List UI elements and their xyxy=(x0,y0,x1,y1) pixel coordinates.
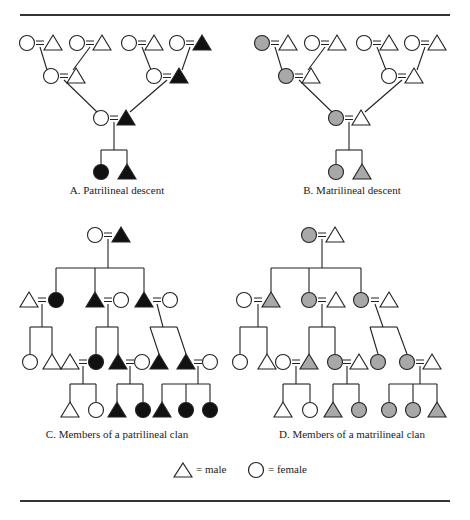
male-triangle-icon xyxy=(20,292,38,307)
female-circle-icon xyxy=(135,355,150,370)
male-triangle-icon xyxy=(170,68,188,83)
female-circle-icon xyxy=(302,228,317,243)
marriage-sign xyxy=(254,298,262,302)
male-triangle-icon xyxy=(428,402,446,417)
male-triangle-icon xyxy=(324,402,342,417)
marriage-sign xyxy=(126,360,134,364)
male-triangle-icon xyxy=(86,292,104,307)
caption-patrilineal-clan: C. Members of a patrilineal clan xyxy=(46,428,188,440)
marriage-sign xyxy=(321,41,329,45)
male-triangle-icon xyxy=(43,354,61,369)
descent-line xyxy=(365,80,402,112)
panel-D xyxy=(233,227,447,418)
marriage-sign xyxy=(295,74,303,78)
female-circle-icon xyxy=(276,355,291,370)
descent-line xyxy=(157,304,163,327)
descent-line xyxy=(64,80,97,112)
male-triangle-icon xyxy=(302,68,320,83)
descent-line xyxy=(417,47,425,70)
marriage-sign xyxy=(373,41,381,45)
male-triangle-icon xyxy=(328,35,346,50)
male-triangle-icon xyxy=(353,164,371,179)
caption-patrilineal-descent: A. Patrilineal descent xyxy=(70,184,164,196)
female-circle-icon xyxy=(382,403,397,418)
marriage-sign xyxy=(86,41,94,45)
marriage-sign xyxy=(416,360,424,364)
marriage-sign xyxy=(104,233,112,237)
caption-matrilineal-descent: B. Matrilineal descent xyxy=(303,184,400,196)
female-circle-icon xyxy=(329,111,344,126)
male-triangle-icon xyxy=(380,35,398,50)
male-triangle-icon xyxy=(352,110,370,125)
male-triangle-icon xyxy=(108,402,126,417)
male-triangle-icon xyxy=(405,68,423,83)
legend-male-label: = male xyxy=(196,463,226,475)
descent-line xyxy=(177,327,186,354)
male-triangle-icon xyxy=(380,292,398,307)
pedigree-diagrams xyxy=(0,0,470,520)
male-triangle-icon xyxy=(326,227,344,242)
female-circle-icon xyxy=(44,69,59,84)
female-circle-icon xyxy=(122,36,137,51)
male-triangle-icon xyxy=(44,35,62,50)
male-triangle-icon xyxy=(177,354,195,369)
marriage-sign xyxy=(292,360,300,364)
male-triangle-icon xyxy=(117,110,135,125)
female-circle-icon xyxy=(354,293,369,308)
descent-line xyxy=(299,80,332,112)
female-circle-icon xyxy=(94,111,109,126)
male-triangle-icon xyxy=(109,354,127,369)
marriage-sign xyxy=(421,41,429,45)
female-circle-icon xyxy=(279,69,294,84)
marriage-sign xyxy=(343,360,351,364)
female-circle-icon xyxy=(88,228,103,243)
male-triangle-icon xyxy=(61,402,79,417)
female-circle-icon xyxy=(20,36,35,51)
marriage-sign xyxy=(345,116,353,120)
marriage-sign xyxy=(104,298,112,302)
marriage-sign xyxy=(318,298,326,302)
female-circle-icon xyxy=(400,355,415,370)
marriage-sign xyxy=(60,74,68,78)
male-triangle-icon xyxy=(300,354,318,369)
male-triangle-icon xyxy=(279,35,297,50)
female-circle-icon xyxy=(405,36,420,51)
marriage-sign xyxy=(186,41,194,45)
marriage-sign xyxy=(38,298,46,302)
male-triangle-icon xyxy=(350,354,368,369)
legend-female-label: = female xyxy=(268,463,307,475)
male-triangle-icon xyxy=(262,292,280,307)
male-triangle-icon xyxy=(327,292,345,307)
marriage-sign xyxy=(398,74,406,78)
female-circle-icon xyxy=(305,36,320,51)
marriage-sign xyxy=(163,74,171,78)
female-circle-icon xyxy=(406,403,421,418)
marriage-sign xyxy=(153,298,161,302)
marriage-sign xyxy=(318,233,326,237)
female-circle-icon xyxy=(179,403,194,418)
marriage-sign xyxy=(371,298,379,302)
male-triangle-icon xyxy=(193,35,211,50)
male-triangle-icon xyxy=(150,354,168,369)
female-circle-icon xyxy=(329,165,344,180)
female-circle-icon xyxy=(49,293,64,308)
caption-matrilineal-clan: D. Members of a matrilineal clan xyxy=(279,428,425,440)
descent-line xyxy=(370,327,378,354)
male-triangle-icon xyxy=(145,35,163,50)
female-circle-icon xyxy=(382,69,397,84)
female-circle-icon xyxy=(233,355,248,370)
male-triangle-icon xyxy=(112,227,130,242)
panel-B xyxy=(255,35,447,180)
male-triangle-icon xyxy=(423,354,441,369)
female-circle-icon xyxy=(303,403,318,418)
female-circle-icon xyxy=(114,293,129,308)
marriage-sign xyxy=(138,41,146,45)
male-triangle-icon xyxy=(93,35,111,50)
legend-male-triangle-icon xyxy=(173,462,193,478)
marriage-sign xyxy=(36,41,44,45)
female-circle-icon xyxy=(89,355,104,370)
female-circle-icon xyxy=(136,403,151,418)
male-triangle-icon xyxy=(153,402,171,417)
descent-line xyxy=(182,47,190,70)
female-circle-icon xyxy=(237,293,252,308)
